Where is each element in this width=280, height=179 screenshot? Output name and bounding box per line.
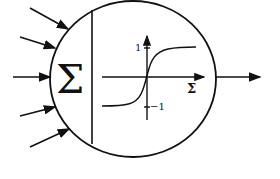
input-arrow-2 bbox=[20, 37, 55, 48]
y-tick-bottom-label: −1 bbox=[150, 101, 165, 112]
input-arrow-1 bbox=[30, 8, 68, 29]
summation-symbol: Σ bbox=[56, 56, 84, 102]
neuron-diagram: Σ 1 −1 Σ bbox=[0, 0, 280, 179]
x-axis-label: Σ bbox=[187, 81, 196, 96]
y-tick-top-label: 1 bbox=[135, 42, 141, 53]
input-arrow-5 bbox=[30, 129, 69, 147]
input-arrow-4 bbox=[20, 107, 55, 116]
